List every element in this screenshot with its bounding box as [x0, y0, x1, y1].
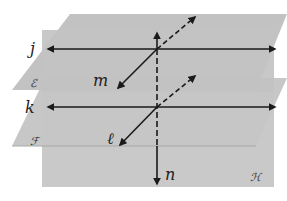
plane-h-front-strip-lower — [42, 92, 274, 146]
label-plane-e: ℰ — [30, 77, 38, 90]
label-j: j — [27, 39, 35, 58]
planes-and-lines-diagram: j k m ℓ n ℰ ℱ ℋ — [0, 0, 287, 201]
label-k: k — [25, 98, 35, 117]
label-n: n — [165, 165, 175, 184]
label-l: ℓ — [107, 129, 114, 148]
label-m: m — [93, 71, 108, 90]
